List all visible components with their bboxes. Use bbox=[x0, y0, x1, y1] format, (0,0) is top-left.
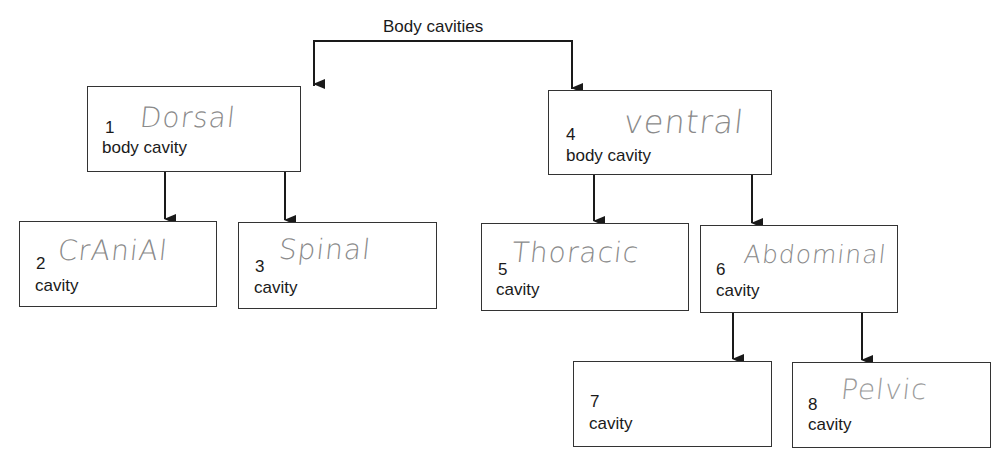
box-spinal-cavity: 3 Spinal cavity bbox=[238, 222, 437, 309]
box-number: 3 bbox=[255, 257, 264, 277]
box-dorsal-body-cavity: 1 Dorsal body cavity bbox=[87, 86, 301, 172]
box-cranial-cavity: 2 CrAniAl cavity bbox=[19, 221, 217, 307]
box-number: 2 bbox=[36, 254, 45, 274]
box-number: 4 bbox=[566, 125, 575, 145]
box-label: cavity bbox=[254, 278, 297, 298]
box-label: cavity bbox=[35, 276, 78, 296]
diagram-title-text: Body cavities bbox=[383, 17, 483, 37]
box-pelvic-cavity: 8 Pelvic cavity bbox=[792, 362, 991, 448]
handwritten-answer[interactable]: ventral bbox=[622, 103, 746, 141]
box-label: cavity bbox=[496, 280, 539, 300]
box-abdominal-cavity: 6 Abdominal cavity bbox=[700, 225, 898, 313]
box-number: 8 bbox=[808, 395, 817, 415]
box-label: cavity bbox=[589, 414, 632, 434]
handwritten-answer[interactable]: Pelvic bbox=[839, 373, 929, 406]
box-number: 7 bbox=[590, 392, 599, 412]
handwritten-answer[interactable]: Abdominal bbox=[742, 240, 888, 269]
box-label: cavity bbox=[716, 281, 759, 301]
handwritten-answer[interactable]: Dorsal bbox=[138, 101, 237, 134]
handwritten-answer[interactable]: Thoracic bbox=[510, 236, 641, 269]
handwritten-answer[interactable]: Spinal bbox=[277, 233, 372, 266]
handwritten-answer[interactable]: CrAniAl bbox=[56, 234, 169, 267]
box-thoracic-cavity: 5 Thoracic cavity bbox=[481, 223, 689, 311]
box-number: 5 bbox=[498, 260, 507, 280]
box-cavity-7-blank: 7 cavity bbox=[573, 361, 772, 447]
box-number: 6 bbox=[716, 260, 725, 280]
box-label: body cavity bbox=[566, 146, 651, 166]
box-label: cavity bbox=[808, 415, 851, 435]
box-number: 1 bbox=[105, 118, 114, 138]
box-ventral-body-cavity: 4 ventral body cavity bbox=[548, 90, 772, 175]
box-label: body cavity bbox=[102, 138, 187, 158]
